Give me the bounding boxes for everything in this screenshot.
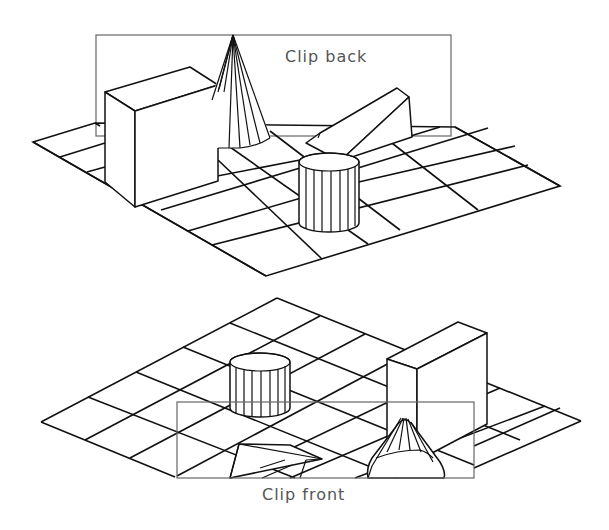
clip-back-label: Clip back	[285, 47, 367, 66]
top-wedge	[306, 88, 412, 161]
bottom-panel: Clip front	[41, 298, 581, 504]
bottom-clipped-wedge	[230, 444, 322, 478]
clip-front-label: Clip front	[262, 485, 345, 504]
top-cone	[210, 35, 271, 148]
top-box	[105, 67, 218, 207]
clip-diagram: Clip back	[0, 0, 609, 530]
bottom-ground-grid	[41, 298, 581, 478]
top-cylinder	[299, 153, 359, 232]
bottom-cylinder	[230, 353, 290, 417]
top-panel: Clip back	[33, 35, 560, 276]
